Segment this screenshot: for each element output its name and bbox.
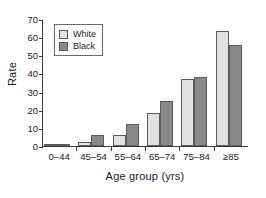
y-tick-label: 20 (14, 106, 38, 116)
grouped-bar-chart: Rate 706050403020100 0–4445–5455–6465–74… (0, 0, 266, 198)
y-tick-label: 70 (14, 15, 38, 25)
y-tick-label: 30 (14, 88, 38, 98)
y-tick-mark (39, 147, 43, 148)
bar-group (111, 20, 145, 146)
bar-group (145, 20, 179, 146)
y-tick-label: 0 (14, 142, 38, 152)
bar-white (78, 142, 91, 146)
x-tick-label: ≥85 (211, 152, 251, 162)
y-tick-label: 40 (14, 70, 38, 80)
x-axis-title: Age group (yrs) (42, 170, 248, 182)
bar-black (194, 77, 207, 146)
x-axis-tick-labels: 0–4445–5455–6465–7475–84≥85 (42, 152, 248, 166)
legend-item-black: Black (59, 40, 96, 52)
bar-black (91, 135, 104, 146)
bar-white (181, 79, 194, 147)
y-tick-label: 10 (14, 124, 38, 134)
y-tick-label: 50 (14, 52, 38, 62)
bar-black (160, 101, 173, 146)
bar-black (126, 124, 139, 146)
bar-white (44, 144, 57, 146)
bar-white (113, 135, 126, 146)
x-tick-mark (111, 147, 112, 151)
chart-legend: White Black (54, 24, 103, 56)
bar-group (214, 20, 248, 146)
legend-swatch-white-icon (59, 30, 68, 39)
legend-label-black: Black (73, 42, 95, 51)
y-tick-label: 60 (14, 33, 38, 43)
bar-black (57, 144, 70, 146)
bar-black (229, 45, 242, 146)
x-tick-mark (179, 147, 180, 151)
x-tick-mark (214, 147, 215, 151)
bar-white (216, 31, 229, 146)
bar-group (179, 20, 213, 146)
legend-label-white: White (73, 30, 96, 39)
bar-white (147, 113, 160, 146)
legend-swatch-black-icon (59, 42, 68, 51)
x-tick-mark (145, 147, 146, 151)
x-tick-mark (76, 147, 77, 151)
legend-item-white: White (59, 28, 96, 40)
